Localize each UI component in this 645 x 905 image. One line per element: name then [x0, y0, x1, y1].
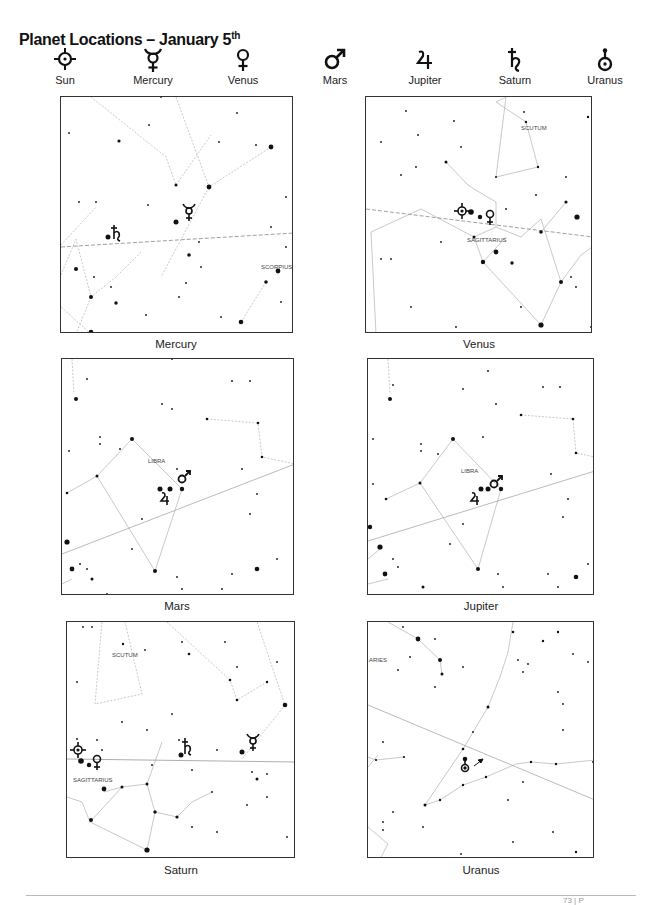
venus-marker-icon [94, 756, 101, 771]
star-chart-saturn: SCUTUM SAGITTARIUS [66, 621, 295, 858]
legend-mars: Mars [300, 47, 370, 86]
mars-marker-icon [491, 476, 503, 488]
legend-mercury: Mercury [118, 47, 188, 86]
legend-saturn: Saturn [480, 47, 550, 86]
stars [68, 97, 287, 333]
constellation-label: LIBRA [461, 468, 478, 474]
panel-caption-mercury: Mercury [61, 338, 291, 350]
star-chart-uranus: ARIES [367, 621, 594, 858]
star-chart-mars: LIBRA [61, 358, 294, 595]
panel-caption-uranus: Uranus [366, 864, 596, 876]
legend-label: Venus [208, 74, 278, 86]
legend-jupiter: Jupiter [390, 47, 460, 86]
title-superscript: th [231, 30, 240, 41]
legend-label: Uranus [570, 74, 640, 86]
jupiter-symbol-icon [390, 47, 460, 71]
uranus-marker-icon [462, 758, 469, 772]
sun-marker-icon [454, 203, 470, 219]
mercury-marker-icon [247, 734, 259, 751]
star-chart-jupiter: LIBRA [367, 358, 594, 595]
sun-symbol-icon [30, 47, 100, 71]
title-text: Planet Locations – January 5 [19, 31, 231, 48]
legend-label: Mercury [118, 74, 188, 86]
uranus-symbol-icon [570, 47, 640, 71]
legend-label: Jupiter [390, 74, 460, 86]
panel-caption-venus: Venus [364, 338, 594, 350]
panel-caption-jupiter: Jupiter [366, 600, 596, 612]
legend-label: Sun [30, 74, 100, 86]
footer-divider [26, 895, 636, 896]
legend-sun: Sun [30, 47, 100, 86]
constellation-label: SCUTUM [521, 125, 547, 131]
legend-uranus: Uranus [570, 47, 640, 86]
sun-marker-icon [70, 742, 86, 758]
constellation-label: SAGITTARIUS [73, 777, 113, 783]
legend-label: Mars [300, 74, 370, 86]
constellation-label: LIBRA [148, 458, 165, 464]
page-number: 73 | P [563, 896, 584, 905]
star-chart-venus: SCUTUM SAGITTARIUS [365, 96, 592, 333]
saturn-marker-icon [111, 225, 120, 241]
constellation-label: SAGITTARIUS [467, 237, 507, 243]
constellation-label: SCUTUM [112, 652, 138, 658]
constellation-label: ARIES [369, 657, 387, 663]
constellation-label: SCORPIUS [261, 264, 292, 270]
mercury-symbol-icon [118, 47, 188, 71]
jupiter-marker-icon [471, 493, 479, 505]
mercury-marker-icon [183, 204, 195, 221]
mars-marker-icon [179, 471, 191, 483]
legend-venus: Venus [208, 47, 278, 86]
panel-caption-mars: Mars [62, 600, 292, 612]
motion-arrow-icon [474, 759, 483, 766]
legend-label: Saturn [480, 74, 550, 86]
panel-caption-saturn: Saturn [66, 864, 296, 876]
star-chart-mercury: SCORPIUS [60, 96, 293, 333]
venus-marker-icon [487, 211, 494, 226]
venus-symbol-icon [208, 47, 278, 71]
mars-symbol-icon [300, 47, 370, 71]
saturn-marker-icon [182, 738, 191, 755]
saturn-symbol-icon [480, 47, 550, 71]
jupiter-marker-icon [161, 493, 169, 505]
